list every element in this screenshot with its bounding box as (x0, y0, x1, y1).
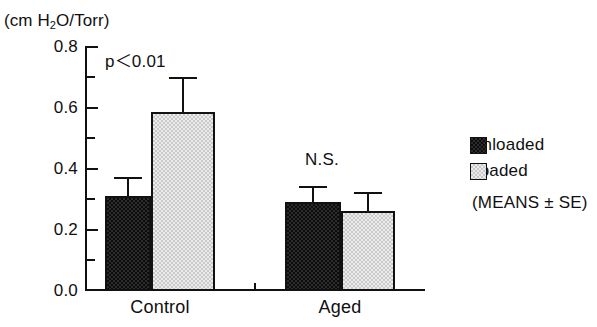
legend-note-means-se: (MEANS ± SE) (472, 193, 597, 213)
significance-label-aged: N.S. (305, 150, 339, 170)
bar-aged-unloaded (285, 202, 341, 291)
bar-aged-loaded (341, 211, 395, 291)
unit-subscript: 2 (50, 19, 56, 31)
y-tick-0-7 (87, 76, 95, 78)
y-tick-0-1 (87, 259, 95, 261)
y-tick-label-0-8: 0.8 (26, 37, 78, 57)
errorbar-stem-aged-unloaded (312, 187, 314, 204)
y-axis-unit-label: (cm H2O/Torr) (4, 11, 110, 31)
y-tick-0-2 (87, 229, 98, 231)
errorbar-cap-aged-unloaded (299, 186, 327, 188)
unit-prefix: (cm H (4, 11, 50, 30)
significance-label-control: p＜0.01 (105, 47, 166, 72)
y-tick-0-8 (87, 46, 98, 48)
errorbar-stem-aged-loaded (367, 193, 369, 213)
y-tick-label-0-0: 0.0 (26, 281, 78, 301)
errorbar-cap-control-unloaded (114, 177, 142, 179)
legend: Unloaded Loaded (MEANS ± SE) (470, 132, 597, 213)
x-axis-label-control: Control (100, 297, 220, 318)
y-tick-label-0-6: 0.6 (26, 98, 78, 118)
legend-swatch-unloaded-icon (470, 137, 487, 154)
cropped-top-text (0, 0, 597, 3)
bar-control-unloaded (105, 196, 151, 291)
y-tick-0-4 (87, 168, 98, 170)
x-axis-group-separator-tick (254, 283, 256, 290)
y-tick-label-0-2: 0.2 (26, 220, 78, 240)
bar-control-loaded (151, 112, 215, 291)
y-tick-label-0-4: 0.4 (26, 159, 78, 179)
errorbar-cap-control-loaded (169, 77, 197, 79)
unit-suffix: O/Torr) (56, 11, 110, 30)
errorbar-stem-control-unloaded (127, 178, 129, 198)
legend-item-loaded: Loaded (470, 158, 597, 184)
legend-swatch-loaded-icon (470, 163, 487, 180)
errorbar-cap-aged-loaded (354, 192, 382, 194)
legend-item-unloaded: Unloaded (470, 132, 597, 158)
y-tick-0-3 (87, 198, 95, 200)
errorbar-stem-control-loaded (182, 78, 184, 114)
x-axis-label-aged: Aged (280, 297, 400, 318)
y-tick-0-6 (87, 107, 98, 109)
y-tick-0-5 (87, 137, 95, 139)
